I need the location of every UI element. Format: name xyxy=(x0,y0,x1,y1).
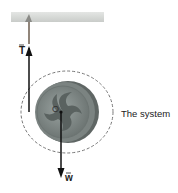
tension-arrowhead xyxy=(26,46,33,56)
yo-yo-disc xyxy=(35,81,99,143)
tension-label: T xyxy=(19,45,25,56)
ceiling-bar xyxy=(11,12,104,22)
yo-yo-diagram xyxy=(0,0,178,193)
center-label: O xyxy=(52,104,59,114)
weight-label: w xyxy=(65,172,73,183)
system-label: The system xyxy=(121,108,170,119)
weight-arrowhead xyxy=(58,168,65,178)
